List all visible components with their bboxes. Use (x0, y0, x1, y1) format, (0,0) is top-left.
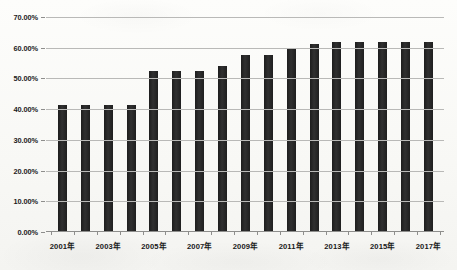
gridline-2000 (46, 171, 444, 172)
y-axis-label: 20.00% (0, 167, 38, 176)
plot-area (46, 17, 444, 232)
gridline-7000 (46, 17, 444, 18)
bar-2005 (149, 71, 158, 232)
x-axis-tick (326, 232, 327, 235)
bar-series (46, 17, 444, 232)
y-axis-tick (41, 78, 45, 79)
x-axis-tick (97, 232, 98, 235)
x-axis-label-2001: 2001年 (50, 240, 75, 251)
gridline-3000 (46, 140, 444, 141)
bar-2003 (104, 105, 113, 232)
x-axis-tick (51, 232, 52, 235)
bar-2015 (378, 42, 387, 232)
x-axis-line (46, 231, 444, 232)
x-axis-tick (394, 232, 395, 235)
bar-2007 (195, 71, 204, 232)
x-axis-label-2011: 2011年 (279, 240, 304, 251)
bar-2017 (424, 42, 433, 232)
bar-2013 (332, 42, 341, 232)
bar-2001 (58, 105, 67, 232)
gridline-5000 (46, 78, 444, 79)
y-axis-label: 50.00% (0, 74, 38, 83)
x-axis-tick (74, 232, 75, 235)
bar-chart: 0.00%10.00%20.00%30.00%40.00%50.00%60.00… (0, 0, 457, 270)
y-axis-tick (41, 140, 45, 141)
x-axis-label-2005: 2005年 (141, 240, 166, 251)
bar-2009 (241, 55, 250, 232)
y-axis-label: 60.00% (0, 44, 38, 53)
x-axis-tick (303, 232, 304, 235)
bar-2012 (310, 44, 319, 232)
bar-2016 (401, 42, 410, 232)
x-axis-tick (417, 232, 418, 235)
x-axis-label-2017: 2017年 (416, 240, 441, 251)
bar-2006 (172, 71, 181, 232)
bar-2010 (264, 55, 273, 232)
y-axis-tick (41, 48, 45, 49)
x-axis-label-2003: 2003年 (96, 240, 121, 251)
x-axis-label-2013: 2013年 (324, 240, 349, 251)
x-axis-tick (120, 232, 121, 235)
bar-2002 (81, 105, 90, 232)
gridline-4000 (46, 109, 444, 110)
y-axis-label: 10.00% (0, 197, 38, 206)
x-axis-tick (440, 232, 441, 235)
x-axis-tick (348, 232, 349, 235)
gridline-1000 (46, 201, 444, 202)
gridline-6000 (46, 48, 444, 49)
y-axis-label: 0.00% (0, 228, 38, 237)
y-axis-label: 40.00% (0, 105, 38, 114)
x-axis-label-2015: 2015年 (370, 240, 395, 251)
bar-2014 (355, 42, 364, 232)
x-axis-tick (188, 232, 189, 235)
y-axis-tick (41, 171, 45, 172)
x-axis-label-2007: 2007年 (187, 240, 212, 251)
y-axis-tick (41, 109, 45, 110)
y-axis-tick (41, 201, 45, 202)
x-axis-tick (257, 232, 258, 235)
x-axis-tick (211, 232, 212, 235)
x-axis-tick (143, 232, 144, 235)
x-axis-tick (234, 232, 235, 235)
x-axis-tick (280, 232, 281, 235)
y-axis-tick (41, 17, 45, 18)
bar-2008 (218, 66, 227, 232)
x-axis-tick (371, 232, 372, 235)
y-axis-label: 70.00% (0, 13, 38, 22)
x-axis-label-2009: 2009年 (233, 240, 258, 251)
x-axis-tick (165, 232, 166, 235)
y-axis-tick (41, 232, 45, 233)
y-axis-label: 30.00% (0, 136, 38, 145)
bar-2004 (127, 105, 136, 232)
